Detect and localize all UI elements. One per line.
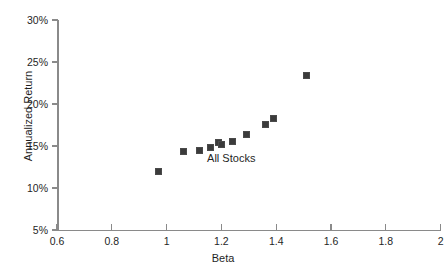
series-annotation-all-stocks: All Stocks [207,152,255,164]
data-point [303,72,310,79]
data-point [243,131,250,138]
data-point [155,168,162,175]
data-point [207,144,214,151]
scatter-chart: 30%25%20%15%10%5% 0.60.811.21.41.61.82 A… [0,0,446,269]
data-point [262,121,269,128]
data-point [180,148,187,155]
data-point [196,147,203,154]
data-points-layer [0,0,446,269]
data-point [270,115,277,122]
data-point [218,141,225,148]
data-point [229,138,236,145]
